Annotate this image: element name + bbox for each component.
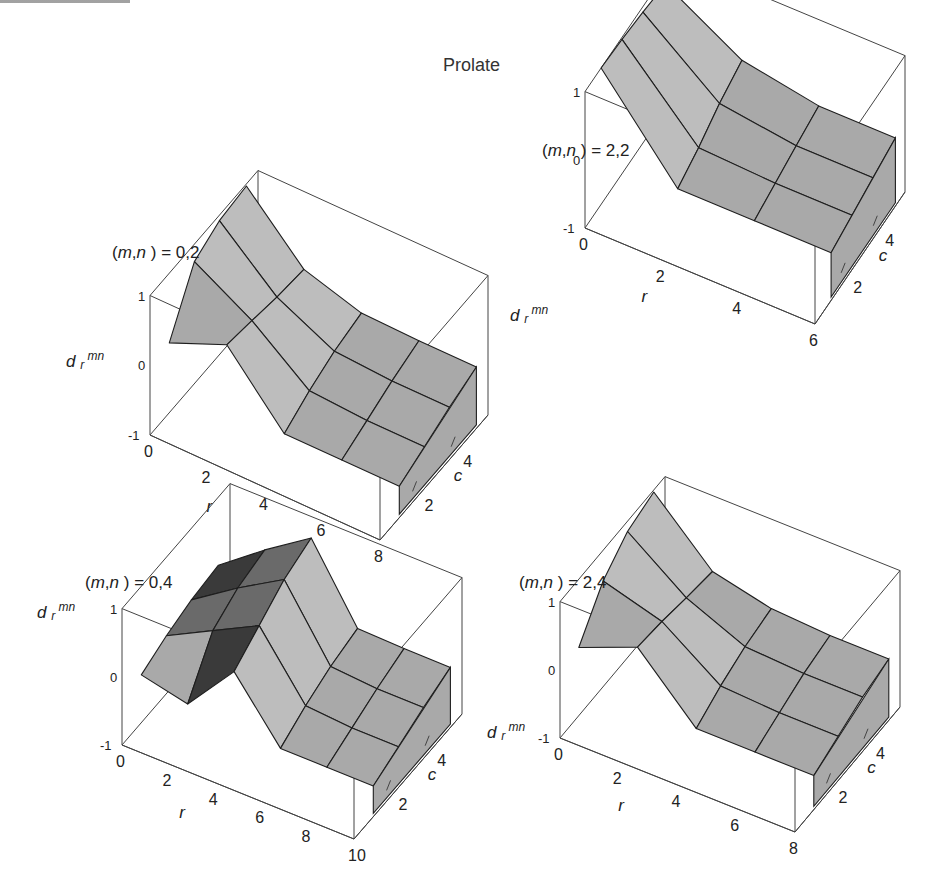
x-tick-label: 6 — [255, 809, 264, 826]
y-tick-label: 2 — [399, 796, 408, 813]
panel-label: (m,n ) = 2,4 — [519, 573, 606, 592]
x-tick-label: 0 — [554, 746, 563, 763]
x-tick-label: 2 — [656, 268, 665, 285]
x-axis-ticks: 0246810 — [116, 753, 366, 864]
clipped-text-fragment — [0, 0, 130, 6]
surface-plot-mn-0-4: 0246810r24c10-1d r mn(m,n ) = 0,4 — [30, 525, 450, 875]
x-tick-label: 0 — [116, 753, 125, 770]
y-tick-label: 4 — [463, 453, 472, 470]
x-tick-label: 0 — [144, 443, 153, 460]
z-axis-ticks: 10-1 — [538, 595, 555, 746]
z-axis-ticks: 10-1 — [563, 85, 580, 236]
x-tick-label: 10 — [348, 847, 366, 864]
z-axis-label: d r mn — [66, 349, 105, 372]
z-axis-ticks: 10-1 — [128, 289, 145, 444]
z-tick-label: 1 — [573, 85, 580, 100]
y-axis-label: c — [428, 765, 437, 784]
panel-label: (m,n ) = 2,2 — [542, 141, 629, 160]
y-tick-label: 4 — [437, 752, 446, 769]
y-axis-label: c — [454, 466, 463, 485]
surface-plot-mn-2-2: 0246r24c10-1d r mn(m,n ) = 2,2 — [500, 110, 920, 460]
x-axis-ticks: 02468 — [554, 746, 798, 857]
panel-label: (m,n ) = 0,2 — [112, 243, 199, 262]
figure-title: Prolate — [0, 55, 943, 76]
surface-plot-mn-2-4: 02468r24c10-1d r mn(m,n ) = 2,4 — [500, 525, 920, 875]
z-tick-label: 0 — [138, 358, 145, 373]
x-axis-label: r — [642, 287, 649, 306]
panel-label: (m,n ) = 0,4 — [85, 573, 172, 592]
x-tick-label: 8 — [789, 840, 798, 857]
z-axis-label: d r mn — [510, 303, 549, 326]
x-axis-label: r — [179, 803, 186, 822]
y-tick-label: 4 — [876, 745, 885, 762]
x-axis-ticks: 0246 — [579, 236, 818, 349]
x-tick-label: 2 — [162, 772, 171, 789]
z-tick-label: 0 — [110, 670, 117, 685]
surface-mesh — [601, 0, 895, 297]
x-tick-label: 4 — [732, 300, 741, 317]
surface-plot-mn-0-2: 02468r24c10-1d r mn(m,n ) = 0,2 — [30, 110, 450, 460]
x-tick-label: 2 — [613, 770, 622, 787]
surface-mesh — [579, 492, 889, 806]
z-tick-label: 1 — [138, 289, 145, 304]
z-tick-label: -1 — [100, 738, 112, 753]
z-axis-label: d r mn — [37, 600, 76, 623]
y-tick-label: 2 — [839, 789, 848, 806]
x-tick-label: 8 — [302, 828, 311, 845]
y-axis-label: c — [867, 758, 876, 777]
z-tick-label: -1 — [128, 428, 140, 443]
z-tick-label: 1 — [110, 602, 117, 617]
z-axis-label: d r mn — [487, 720, 526, 743]
z-tick-label: 1 — [548, 595, 555, 610]
z-tick-label: -1 — [538, 731, 550, 746]
z-tick-label: 0 — [548, 663, 555, 678]
x-tick-label: 4 — [672, 793, 681, 810]
x-tick-label: 2 — [202, 469, 211, 486]
y-axis-label: c — [879, 246, 888, 265]
x-tick-label: 4 — [209, 791, 218, 808]
z-axis-ticks: 10-1 — [100, 602, 117, 753]
y-tick-label: 2 — [425, 497, 434, 514]
z-tick-label: -1 — [563, 221, 575, 236]
x-tick-label: 0 — [579, 236, 588, 253]
x-tick-label: 6 — [730, 817, 739, 834]
y-tick-label: 2 — [853, 279, 862, 296]
x-tick-label: 6 — [809, 332, 818, 349]
x-axis-label: r — [618, 796, 625, 815]
